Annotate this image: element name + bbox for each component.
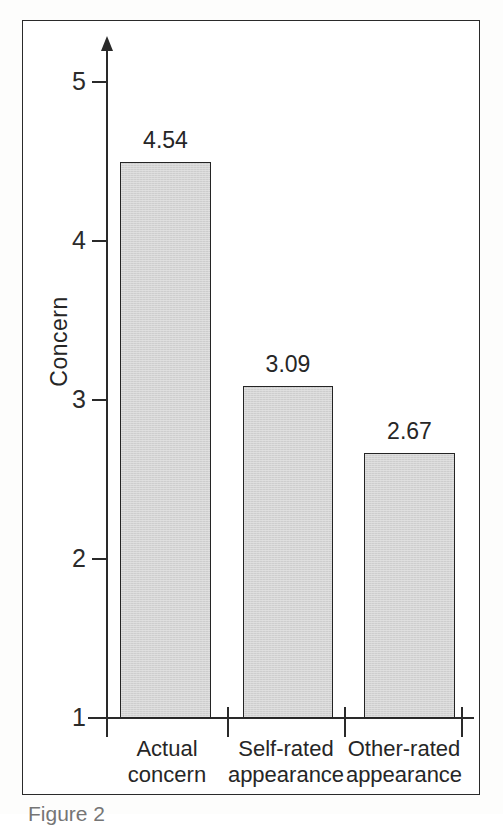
bar-other-rated-appearance	[364, 453, 455, 718]
bar-self-rated-appearance	[243, 386, 333, 718]
y-tick-mark-4	[92, 240, 107, 242]
figure-caption: Figure 2	[28, 803, 105, 824]
x-tick-mark-1	[227, 707, 229, 737]
bar-fill-texture	[121, 163, 210, 717]
x-tick-mark-0	[106, 707, 108, 737]
y-tick-label-4: 4	[52, 228, 86, 253]
x-tick-mark-2	[344, 707, 346, 737]
y-tick-label-2: 2	[52, 546, 86, 571]
y-tick-mark-1	[92, 717, 107, 719]
y-axis-arrow-icon	[101, 36, 113, 51]
y-tick-mark-5	[92, 81, 107, 83]
bar-actual-concern	[120, 162, 211, 718]
x-category-label-line-2: concern	[106, 762, 228, 788]
x-category-label-other-rated-appearance: Other-rated appearance	[344, 736, 464, 788]
x-category-label-line-2: appearance	[227, 762, 345, 788]
y-tick-label-1: 1	[52, 705, 86, 730]
x-category-label-line-2: appearance	[344, 762, 464, 788]
x-category-label-line-1: Actual	[106, 736, 228, 762]
x-category-label-line-1: Other-rated	[344, 736, 464, 762]
x-category-label-self-rated-appearance: Self-rated appearance	[227, 736, 345, 788]
y-tick-mark-2	[92, 558, 107, 560]
bar-value-label-actual-concern: 4.54	[120, 129, 211, 152]
y-axis-line	[106, 48, 108, 719]
y-axis-title: Concern	[48, 277, 71, 407]
bar-value-label-self-rated-appearance: 3.09	[243, 353, 333, 376]
bar-value-label-other-rated-appearance: 2.67	[364, 420, 455, 443]
bar-fill-texture	[365, 454, 454, 717]
x-tick-mark-3	[461, 707, 463, 737]
x-category-label-line-1: Self-rated	[227, 736, 345, 762]
bar-fill-texture	[244, 387, 332, 717]
y-tick-label-5: 5	[52, 69, 86, 94]
y-tick-mark-3	[92, 399, 107, 401]
x-category-label-actual-concern: Actual concern	[106, 736, 228, 788]
